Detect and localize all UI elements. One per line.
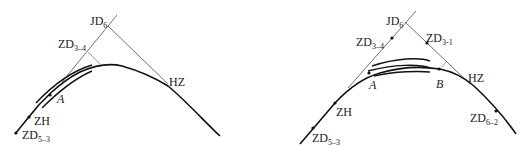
right-figure: JD6 ZD3–4 ZD3-1 A B HZ ZH ZD5–3 ZD6–2 bbox=[300, 11, 516, 147]
right-label-zd-5-3: ZD5–3 bbox=[312, 131, 340, 147]
right-label-b: B bbox=[436, 77, 444, 91]
right-point-zd-3-4 bbox=[390, 36, 393, 39]
left-point-zd-5-3 bbox=[14, 131, 17, 134]
left-label-hz: HZ bbox=[169, 75, 185, 89]
right-point-zd-5-3 bbox=[311, 126, 314, 129]
right-point-b bbox=[437, 67, 440, 70]
left-tangent-line-ahead bbox=[108, 26, 168, 84]
left-label-zd-3-4: ZD3–4 bbox=[58, 37, 86, 53]
right-label-a: A bbox=[368, 78, 377, 92]
left-offset-marker bbox=[88, 52, 101, 65]
right-label-hz: HZ bbox=[468, 71, 484, 85]
right-label-zd-3-4: ZD3–4 bbox=[356, 35, 384, 51]
right-point-a bbox=[367, 71, 370, 74]
left-point-zh bbox=[27, 115, 30, 118]
right-point-zd-6-2 bbox=[494, 109, 497, 112]
left-figure: JD6 ZD3–4 HZ A ZH ZD5–3 bbox=[14, 14, 220, 144]
right-label-zd-6-2: ZD6–2 bbox=[470, 111, 498, 127]
right-label-jd6: JD6 bbox=[386, 14, 403, 30]
left-label-a: A bbox=[56, 92, 65, 106]
right-label-zd-3-1: ZD3-1 bbox=[426, 31, 453, 47]
left-label-jd6: JD6 bbox=[90, 14, 107, 30]
left-point-a bbox=[48, 93, 51, 96]
right-label-zh: ZH bbox=[336, 105, 352, 119]
left-label-zd-5-3: ZD5–3 bbox=[22, 128, 50, 144]
right-offset-marker bbox=[442, 62, 446, 67]
curve-layout-diagram: JD6 ZD3–4 HZ A ZH ZD5–3 JD bbox=[0, 0, 528, 156]
left-label-zh: ZH bbox=[34, 114, 50, 128]
